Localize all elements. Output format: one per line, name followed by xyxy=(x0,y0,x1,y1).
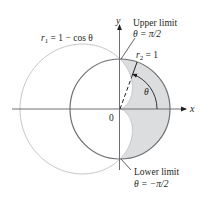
r1-label: r1 = 1 − cos θ xyxy=(41,33,93,45)
y-axis-label: y xyxy=(115,15,121,26)
upper-limit-expr: θ = π/2 xyxy=(133,29,161,39)
lower-limit-title: Lower limit xyxy=(134,167,179,177)
origin-label: 0 xyxy=(109,113,114,123)
lower-limit-leader xyxy=(121,159,131,170)
r2-label: r2 = 1 xyxy=(136,50,158,62)
upper-limit-leader xyxy=(121,38,135,59)
upper-limit-title: Upper limit xyxy=(133,18,177,28)
lower-limit-expr: θ = −π/2 xyxy=(134,179,169,189)
polar-area-diagram: y x 0 r1 = 1 − cos θ r2 = 1 θ Upper limi… xyxy=(0,0,209,197)
theta-label: θ xyxy=(144,87,149,97)
x-axis-label: x xyxy=(189,103,195,114)
